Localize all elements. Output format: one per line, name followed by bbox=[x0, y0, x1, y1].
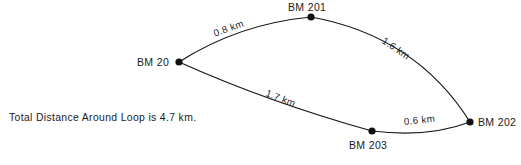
edge-bm201-bm202 bbox=[311, 17, 470, 122]
edge-bm20-bm201 bbox=[179, 17, 311, 62]
node-label-bm201: BM 201 bbox=[288, 2, 326, 13]
node-label-bm202: BM 202 bbox=[478, 117, 516, 128]
node-dot-bm201 bbox=[307, 13, 314, 20]
node-label-bm20: BM 20 bbox=[137, 57, 169, 68]
node-dot-bm20 bbox=[175, 58, 182, 65]
survey-loop-diagram: BM 20BM 201BM 202BM 203 0.8 km1.6 km1.7 … bbox=[0, 0, 521, 165]
node-label-bm203: BM 203 bbox=[349, 140, 387, 151]
loop-graphic bbox=[0, 0, 521, 165]
node-dot-bm202 bbox=[466, 118, 473, 125]
node-dot-bm203 bbox=[368, 127, 375, 134]
total-distance-caption: Total Distance Around Loop is 4.7 km. bbox=[9, 113, 196, 123]
